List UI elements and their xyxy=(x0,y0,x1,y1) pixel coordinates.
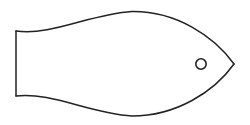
fish-drawing xyxy=(0,0,250,125)
canvas-background xyxy=(0,0,250,125)
illustration-canvas xyxy=(0,0,250,125)
